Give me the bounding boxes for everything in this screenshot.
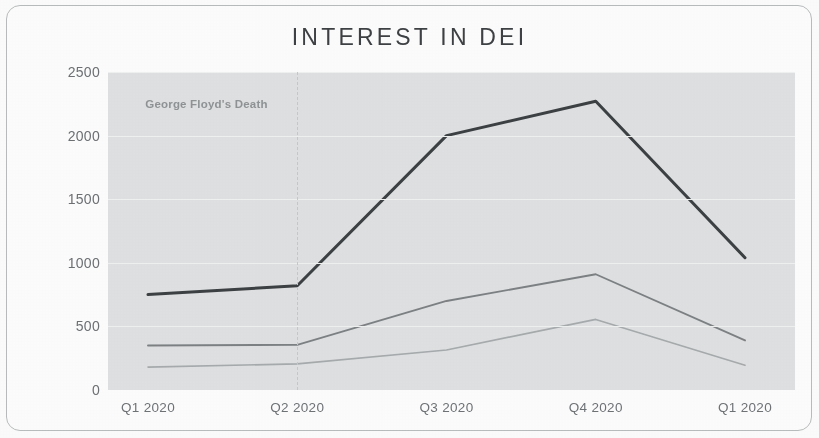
- x-axis-tick-label: Q1 2020: [718, 400, 772, 415]
- y-axis-tick-label: 2500: [36, 64, 100, 80]
- x-axis-tick-label: Q1 2020: [121, 400, 175, 415]
- y-axis-tick-label: 1500: [36, 191, 100, 207]
- plot-area: [108, 72, 795, 390]
- series-line: [148, 101, 745, 294]
- y-axis-tick-label: 500: [36, 318, 100, 334]
- series-lines: [108, 72, 795, 390]
- series-line: [148, 274, 745, 345]
- y-axis-tick-label: 1000: [36, 255, 100, 271]
- gridline: [108, 72, 795, 73]
- event-marker-line: [297, 72, 298, 390]
- x-axis-tick-label: Q2 2020: [270, 400, 324, 415]
- gridline: [108, 263, 795, 264]
- gridline: [108, 136, 795, 137]
- chart-screenshot: INTEREST IN DEI DEI Questions Asked 2500…: [0, 0, 819, 438]
- gridline: [108, 199, 795, 200]
- gridline: [108, 326, 795, 327]
- y-axis-tick-label: 2000: [36, 128, 100, 144]
- event-annotation-label: George Floyd's Death: [145, 98, 267, 110]
- y-axis-tick-label: 0: [36, 382, 100, 398]
- x-axis-tick-label: Q4 2020: [569, 400, 623, 415]
- chart-title: INTEREST IN DEI: [0, 24, 819, 51]
- x-axis-tick-label: Q3 2020: [420, 400, 474, 415]
- y-axis-tick-labels: 25002000150010005000: [28, 72, 100, 390]
